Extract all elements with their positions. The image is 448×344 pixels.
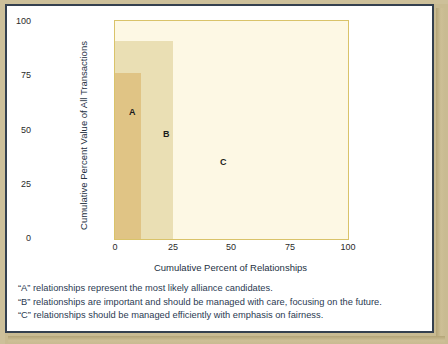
x-tick-label-100: 100 bbox=[340, 242, 355, 252]
page-edge-right bbox=[436, 8, 445, 340]
caption-block: “A” relationships represent the most lik… bbox=[18, 282, 423, 323]
y-axis-title: Cumulative Percent Value of All Transact… bbox=[78, 21, 89, 251]
band-label-a: A bbox=[129, 107, 136, 117]
x-tick-label-25: 25 bbox=[168, 242, 178, 252]
caption-line-a: “A” relationships represent the most lik… bbox=[18, 282, 423, 296]
y-tick-label-75: 75 bbox=[7, 70, 31, 80]
x-tick-label-0: 0 bbox=[112, 242, 117, 252]
caption-line-b: “B” relationships are important and shou… bbox=[18, 296, 423, 310]
band-a-region bbox=[115, 73, 141, 239]
y-tick-label-25: 25 bbox=[7, 179, 31, 189]
x-tick-label-75: 75 bbox=[285, 242, 295, 252]
plot-area: A B C bbox=[114, 20, 349, 240]
caption-line-c: “C” relationships should be managed effi… bbox=[18, 309, 423, 323]
figure-card: Cumulative Percent Value of All Transact… bbox=[5, 4, 434, 333]
x-tick-label-50: 50 bbox=[226, 242, 236, 252]
page-edge-bottom bbox=[8, 336, 445, 344]
y-tick-label-0: 0 bbox=[7, 233, 31, 243]
band-label-c: C bbox=[220, 157, 227, 167]
y-tick-label-50: 50 bbox=[7, 125, 31, 135]
x-axis-title: Cumulative Percent of Relationships bbox=[114, 262, 347, 273]
band-label-b: B bbox=[163, 129, 170, 139]
y-tick-label-100: 100 bbox=[7, 16, 31, 26]
